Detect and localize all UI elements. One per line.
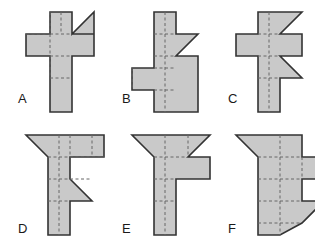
shape-label-d: D bbox=[18, 222, 28, 235]
shape-figure-c bbox=[234, 10, 312, 110]
shape-label-f: F bbox=[228, 222, 236, 235]
shape-figure-f bbox=[234, 133, 312, 233]
shape-body bbox=[236, 135, 315, 235]
shape-body bbox=[26, 12, 94, 112]
shape-outline-a bbox=[24, 10, 116, 114]
shape-outline-d bbox=[24, 133, 116, 237]
shape-body bbox=[26, 135, 104, 235]
shape-figure-e bbox=[130, 133, 208, 233]
shape-body bbox=[132, 135, 210, 235]
shape-label-c: C bbox=[228, 92, 238, 105]
shape-figure-b bbox=[130, 10, 208, 110]
shape-outline-e bbox=[130, 133, 222, 237]
shape-figure-panel: ABCDEF bbox=[0, 0, 315, 245]
shape-label-e: E bbox=[122, 222, 131, 235]
shape-figure-d bbox=[24, 133, 102, 233]
shape-label-a: A bbox=[18, 92, 27, 105]
shape-label-b: B bbox=[122, 92, 131, 105]
shape-figure-a bbox=[24, 10, 102, 110]
shape-outline-f bbox=[234, 133, 315, 237]
shape-outline-c bbox=[234, 10, 315, 114]
shape-outline-b bbox=[130, 10, 222, 114]
